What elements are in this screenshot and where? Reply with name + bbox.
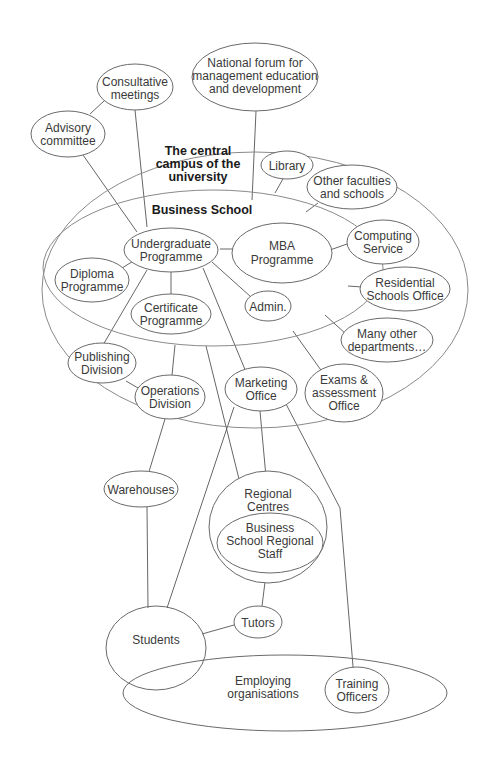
svg-text:The central: The central [165, 144, 232, 158]
svg-text:Warehouses: Warehouses [108, 483, 175, 497]
node-computing-service[interactable]: Computing Service [347, 220, 419, 264]
edge-bs-regional-centres [206, 346, 240, 483]
svg-text:Publishing: Publishing [74, 350, 129, 364]
svg-text:MBA: MBA [269, 239, 295, 253]
svg-text:Programme: Programme [61, 280, 124, 294]
edge-exams [293, 331, 323, 373]
svg-text:Programme: Programme [140, 250, 203, 264]
svg-text:Advisory: Advisory [45, 121, 91, 135]
node-residential-schools-office[interactable]: Residential Schools Office [360, 267, 450, 311]
svg-text:Officers: Officers [336, 690, 377, 704]
svg-text:Library: Library [269, 159, 306, 173]
edge-warehouses-students [147, 507, 148, 608]
svg-text:committee: committee [40, 134, 96, 148]
edge-advisory-consultative [90, 101, 104, 114]
node-consultative-meetings[interactable]: Consultative meetings [97, 64, 173, 110]
edge-computing [330, 244, 347, 250]
svg-text:Residential: Residential [375, 276, 434, 290]
edge-advisory-undergraduate [83, 155, 137, 232]
business-school-label: Business School [152, 203, 253, 217]
node-publishing-division[interactable]: Publishing Division [68, 343, 136, 383]
svg-text:Students: Students [132, 633, 179, 647]
svg-text:and development: and development [209, 82, 302, 96]
node-warehouses[interactable]: Warehouses [104, 471, 178, 507]
svg-text:National forum for: National forum for [207, 56, 302, 70]
svg-text:Employing: Employing [235, 674, 291, 688]
svg-text:assessment: assessment [312, 386, 377, 400]
svg-text:Business: Business [246, 521, 295, 535]
edge-library [275, 177, 284, 193]
svg-text:Diploma: Diploma [70, 267, 114, 281]
svg-text:Admin.: Admin. [249, 300, 286, 314]
svg-text:Service: Service [363, 242, 403, 256]
svg-text:Division: Division [149, 397, 191, 411]
edge-marketing-regional [260, 411, 266, 477]
svg-text:departments…: departments… [348, 340, 427, 354]
svg-text:Operations: Operations [141, 384, 200, 398]
node-diploma-programme[interactable]: Diploma Programme [55, 258, 129, 302]
edge-consultative-undergraduate [135, 110, 147, 227]
svg-text:campus of the: campus of the [156, 157, 241, 171]
node-tutors[interactable]: Tutors [234, 606, 282, 638]
svg-text:Tutors: Tutors [241, 616, 275, 630]
node-many-other-departments[interactable]: Many other departments… [341, 318, 433, 362]
svg-text:Office: Office [245, 389, 276, 403]
svg-text:Marketing: Marketing [235, 376, 288, 390]
edge-national-forum-campus [252, 111, 256, 200]
svg-text:School Regional: School Regional [226, 534, 313, 548]
node-marketing-office[interactable]: Marketing Office [225, 367, 297, 411]
node-other-faculties[interactable]: Other faculties and schools [307, 165, 397, 209]
edge-operations-warehouses [148, 419, 165, 475]
employing-organisations-label: Employing organisations [227, 674, 298, 701]
organisation-diagram: The central campus of the university Bus… [0, 0, 500, 758]
node-business-school-regional-staff[interactable]: Business School Regional Staff [217, 513, 323, 573]
node-certificate-programme[interactable]: Certificate Programme [131, 294, 211, 334]
svg-text:Many other: Many other [357, 327, 417, 341]
svg-text:Computing: Computing [354, 229, 412, 243]
svg-text:meetings: meetings [111, 88, 160, 102]
svg-text:and schools: and schools [320, 187, 384, 201]
svg-text:Programme: Programme [140, 314, 203, 328]
svg-text:Consultative: Consultative [102, 75, 168, 89]
svg-text:Exams &: Exams & [320, 373, 368, 387]
svg-text:Schools Office: Schools Office [366, 289, 443, 303]
svg-text:Division: Division [81, 363, 123, 377]
node-training-officers[interactable]: Training Officers [325, 667, 389, 713]
svg-text:Staff: Staff [258, 547, 283, 561]
node-library[interactable]: Library [261, 151, 313, 179]
edge-tutors-students [202, 625, 234, 634]
node-mba-programme[interactable]: MBA Programme [232, 223, 332, 283]
node-undergraduate-programme[interactable]: Undergraduate Programme [124, 228, 218, 272]
campus-label: The central campus of the university [156, 144, 241, 184]
svg-text:Regional: Regional [244, 487, 291, 501]
svg-text:Certificate: Certificate [144, 301, 198, 315]
svg-text:university: university [168, 170, 227, 184]
svg-text:management education: management education [192, 69, 317, 83]
node-admin[interactable]: Admin. [245, 291, 291, 321]
node-students[interactable]: Students [106, 606, 206, 690]
edge-publishing-operations [126, 381, 138, 388]
node-exams-assessment-office[interactable]: Exams & assessment Office [305, 364, 383, 422]
svg-text:Other faculties: Other faculties [313, 174, 390, 188]
svg-text:Centres: Centres [247, 500, 289, 514]
svg-text:organisations: organisations [227, 687, 298, 701]
node-advisory-committee[interactable]: Advisory committee [31, 111, 105, 157]
svg-text:Programme: Programme [251, 253, 314, 267]
node-operations-division[interactable]: Operations Division [135, 375, 205, 419]
edge-bs-operations [172, 345, 175, 375]
node-national-forum[interactable]: National forum for management education … [192, 43, 318, 111]
svg-text:Training: Training [336, 677, 379, 691]
svg-text:Office: Office [328, 399, 359, 413]
svg-text:Undergraduate: Undergraduate [131, 237, 211, 251]
